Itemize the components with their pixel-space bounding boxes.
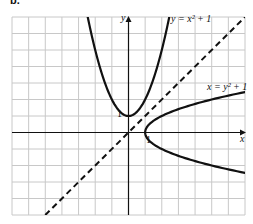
curve-label-parabola-right: x = y² + 1 bbox=[207, 81, 247, 92]
x-axis-label: x bbox=[240, 133, 244, 144]
y-axis-label: y bbox=[121, 12, 125, 23]
graph bbox=[0, 0, 253, 224]
curve-label-parabola-up: y = x² + 1 bbox=[171, 13, 211, 24]
tick-label-x-1: 1 bbox=[146, 134, 151, 145]
tick-label-y-1: 1 bbox=[117, 108, 122, 119]
